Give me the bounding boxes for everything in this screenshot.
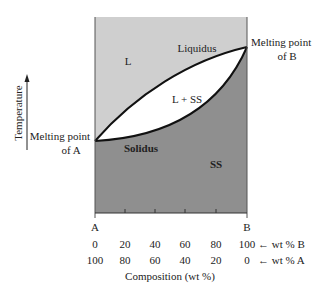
arrow-head-icon xyxy=(25,74,30,82)
melting-point-a-line1: Melting point xyxy=(30,131,90,142)
wt-a-tick-100: 100 xyxy=(87,255,104,266)
wt-a-tick-20: 20 xyxy=(211,255,222,266)
wt-b-tick-20: 20 xyxy=(120,239,131,250)
label-solid-region: SS xyxy=(210,159,222,170)
wt-b-suffix: ← wt % B xyxy=(258,239,305,250)
axis-end-b: B xyxy=(243,222,250,233)
melting-point-b-line1: Melting point xyxy=(251,37,311,48)
wt-a-tick-40: 40 xyxy=(180,255,191,266)
wt-a-tick-80: 80 xyxy=(120,255,131,266)
wt-b-tick-80: 80 xyxy=(211,239,222,250)
axis-end-a: A xyxy=(91,222,99,233)
y-axis-label: Temperature xyxy=(12,85,24,140)
wt-a-suffix: ← wt % A xyxy=(258,255,305,266)
label-liquid-region: L xyxy=(125,56,132,67)
label-solidus: Solidus xyxy=(124,143,158,154)
melting-point-a-line2: of A xyxy=(61,145,80,156)
wt-b-tick-100: 100 xyxy=(239,239,256,250)
melting-point-b-line2: of B xyxy=(277,51,296,62)
wt-a-tick-0: 0 xyxy=(244,255,250,266)
label-two-phase-region: L + SS xyxy=(172,94,202,105)
wt-b-tick-60: 60 xyxy=(180,239,191,250)
wt-b-tick-40: 40 xyxy=(150,239,161,250)
x-axis-title: Composition (wt %) xyxy=(125,271,215,282)
label-liquidus: Liquidus xyxy=(177,43,216,54)
wt-a-tick-60: 60 xyxy=(150,255,161,266)
wt-b-tick-0: 0 xyxy=(92,239,98,250)
